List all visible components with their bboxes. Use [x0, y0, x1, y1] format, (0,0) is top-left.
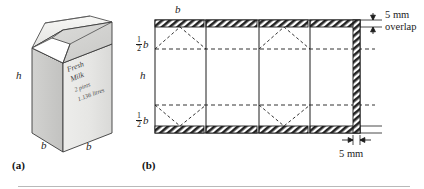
- net-overlap-arrow-horizontal: [342, 135, 371, 145]
- net-top-tab-2: [206, 20, 257, 27]
- net-side-overlap-note: 5 mm: [339, 148, 363, 160]
- net-development-panel: b 1 2 b h 1 2 b 5 mm over: [130, 0, 424, 170]
- figure-container: Fresh Milk 2 pints 1.136 litres h b b (a…: [0, 0, 424, 189]
- net-lower-flap-symbol: b: [143, 115, 149, 126]
- net-body-height-label: h: [140, 70, 146, 81]
- carton-height-label: h: [16, 70, 22, 81]
- net-outline: [155, 20, 360, 133]
- net-lower-flap-fraction: 1 2: [136, 112, 142, 129]
- net-top-tab-4: [310, 20, 360, 27]
- net-bottom-tab-2: [206, 126, 257, 133]
- net-top-width-label: b: [175, 4, 181, 15]
- net-upper-flap-denominator: 2: [136, 44, 142, 53]
- net-drawing: [130, 0, 424, 170]
- net-overlap-arrow-vertical: [371, 13, 376, 34]
- figure-bottom-rule: [18, 186, 410, 187]
- net-overlap-note-line-2: overlap: [385, 21, 417, 33]
- carton-width-label: b: [86, 141, 92, 152]
- net-lower-flap-numerator: 1: [136, 112, 142, 120]
- net-top-tab-1: [155, 20, 204, 27]
- carton-depth-label: b: [41, 140, 47, 151]
- net-overlap-note: 5 mm overlap: [385, 9, 417, 33]
- net-bottom-tab-4: [310, 126, 360, 133]
- net-overlap-note-line-1: 5 mm: [385, 9, 417, 21]
- net-bottom-tab-3: [259, 126, 308, 133]
- carton-left-face: [32, 48, 63, 152]
- panel-tag-a: (a): [12, 160, 25, 171]
- net-bottom-tab-1: [155, 126, 204, 133]
- net-lower-flap-label: 1 2 b: [136, 104, 149, 129]
- net-upper-flap-label: 1 2 b: [136, 28, 149, 53]
- carton-drawing: Fresh Milk 2 pints 1.136 litres: [0, 0, 150, 170]
- net-lower-flap-denominator: 2: [136, 120, 142, 129]
- net-top-tab-3: [259, 20, 308, 27]
- net-side-overlap-strip: [353, 20, 360, 133]
- panel-tag-b: (b): [142, 160, 155, 171]
- carton-pictorial-panel: Fresh Milk 2 pints 1.136 litres h b b: [0, 0, 150, 170]
- net-upper-flap-numerator: 1: [136, 36, 142, 44]
- net-upper-flap-fraction: 1 2: [136, 36, 142, 53]
- net-upper-flap-symbol: b: [143, 39, 149, 50]
